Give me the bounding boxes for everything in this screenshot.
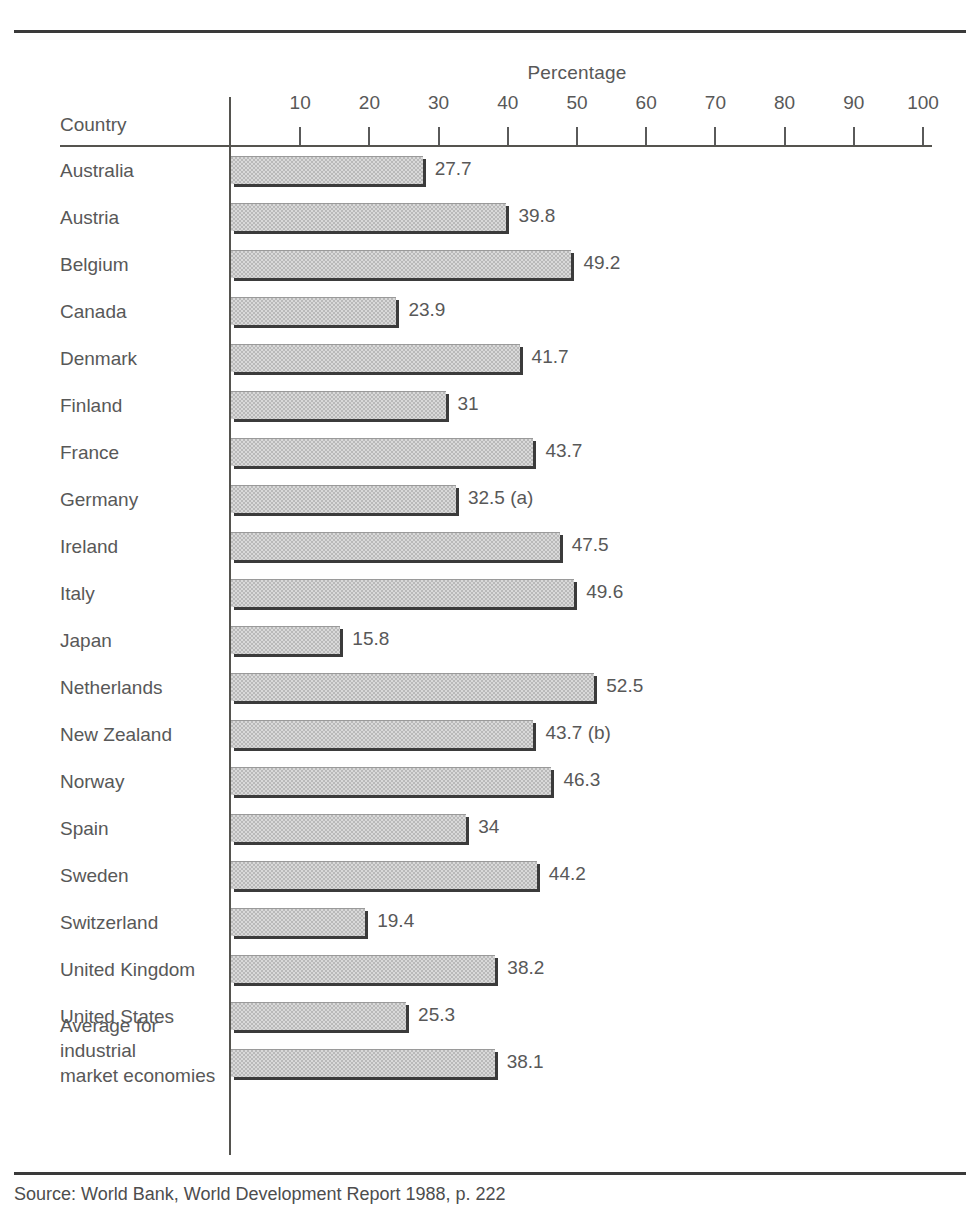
bar-value-label: 46.3 (563, 769, 600, 791)
bar (231, 955, 495, 983)
x-tick-label-40: 40 (497, 92, 518, 114)
x-tick-70 (714, 127, 716, 145)
bar-row: Finland31 (0, 391, 980, 438)
x-tick-label-90: 90 (843, 92, 864, 114)
bar (231, 579, 574, 607)
category-label: Japan (60, 628, 112, 653)
bar (231, 532, 560, 560)
bar (231, 297, 396, 325)
x-tick-label-60: 60 (636, 92, 657, 114)
category-label: Finland (60, 393, 122, 418)
bar-row: Belgium49.2 (0, 250, 980, 297)
bar (231, 1002, 406, 1030)
category-label: Germany (60, 487, 138, 512)
x-tick-label-80: 80 (774, 92, 795, 114)
bar-value-label: 38.2 (507, 957, 544, 979)
category-label: Sweden (60, 863, 129, 888)
category-label: Australia (60, 158, 134, 183)
bar-value-label: 44.2 (549, 863, 586, 885)
bar-value-label: 19.4 (377, 910, 414, 932)
category-label: Italy (60, 581, 95, 606)
x-tick-label-30: 30 (428, 92, 449, 114)
top-rule (14, 30, 966, 33)
bar-value-label: 43.7 (545, 440, 582, 462)
bar-value-label: 41.7 (532, 346, 569, 368)
bar-value-label: 47.5 (572, 534, 609, 556)
bar-row: Italy49.6 (0, 579, 980, 626)
bar (231, 673, 594, 701)
x-tick-10 (299, 127, 301, 145)
bar-row: Canada23.9 (0, 297, 980, 344)
bar-row: Sweden44.2 (0, 861, 980, 908)
bar (231, 203, 506, 231)
bar-row: Netherlands52.5 (0, 673, 980, 720)
bar-row: Spain34 (0, 814, 980, 861)
x-tick-80 (784, 127, 786, 145)
bar-row: Switzerland19.4 (0, 908, 980, 955)
bar-value-label: 27.7 (435, 158, 472, 180)
bar-value-label: 39.8 (518, 205, 555, 227)
category-label: France (60, 440, 119, 465)
x-tick-30 (438, 127, 440, 145)
category-label: United Kingdom (60, 957, 195, 982)
x-tick-40 (507, 127, 509, 145)
bar-value-label: 38.1 (507, 1051, 544, 1073)
bar-value-label: 31 (458, 393, 479, 415)
bar-row: United Kingdom38.2 (0, 955, 980, 1002)
category-label: Canada (60, 299, 127, 324)
bar-value-label: 49.2 (583, 252, 620, 274)
header-rule (60, 145, 932, 147)
category-label: Spain (60, 816, 109, 841)
bar-value-label: 49.6 (586, 581, 623, 603)
x-tick-50 (576, 127, 578, 145)
bar (231, 814, 466, 842)
bar-value-label: 34 (478, 816, 499, 838)
bar-row: New Zealand43.7 (b) (0, 720, 980, 767)
source-note: Source: World Bank, World Development Re… (14, 1184, 506, 1205)
category-label: Norway (60, 769, 124, 794)
category-label: Switzerland (60, 910, 158, 935)
bar (231, 861, 537, 889)
x-tick-label-10: 10 (290, 92, 311, 114)
bar (231, 250, 571, 278)
bar-value-label: 43.7 (b) (545, 722, 610, 744)
x-tick-label-20: 20 (359, 92, 380, 114)
category-label: Netherlands (60, 675, 162, 700)
category-label: Austria (60, 205, 119, 230)
x-tick-label-70: 70 (705, 92, 726, 114)
bar (231, 908, 365, 936)
x-tick-100 (922, 127, 924, 145)
bar (231, 344, 520, 372)
bar-row: Denmark41.7 (0, 344, 980, 391)
bar-value-label: 52.5 (606, 675, 643, 697)
x-tick-90 (853, 127, 855, 145)
category-label: Belgium (60, 252, 129, 277)
bar (231, 626, 340, 654)
bar-row: Average for industrial market economies3… (0, 1049, 980, 1096)
bar (231, 438, 533, 466)
x-axis-title: Percentage (231, 62, 923, 84)
bar (231, 156, 423, 184)
bar-value-label: 15.8 (352, 628, 389, 650)
bar-row: Ireland47.5 (0, 532, 980, 579)
y-axis-title: Country (60, 114, 127, 136)
bar (231, 767, 551, 795)
bar-row: Germany32.5 (a) (0, 485, 980, 532)
category-label: Denmark (60, 346, 137, 371)
bar-value-label: 32.5 (a) (468, 487, 533, 509)
bar-row: Japan15.8 (0, 626, 980, 673)
x-tick-60 (645, 127, 647, 145)
x-tick-label-100: 100 (907, 92, 939, 114)
bar-row: Austria39.8 (0, 203, 980, 250)
bar-row: France43.7 (0, 438, 980, 485)
x-tick-label-50: 50 (566, 92, 587, 114)
bar-row: Australia27.7 (0, 156, 980, 203)
bar (231, 720, 533, 748)
category-label: New Zealand (60, 722, 172, 747)
category-label: Ireland (60, 534, 118, 559)
category-label: Average for industrial market economies (60, 1013, 215, 1088)
bar-value-label: 23.9 (408, 299, 445, 321)
bar (231, 485, 456, 513)
bar (231, 391, 446, 419)
